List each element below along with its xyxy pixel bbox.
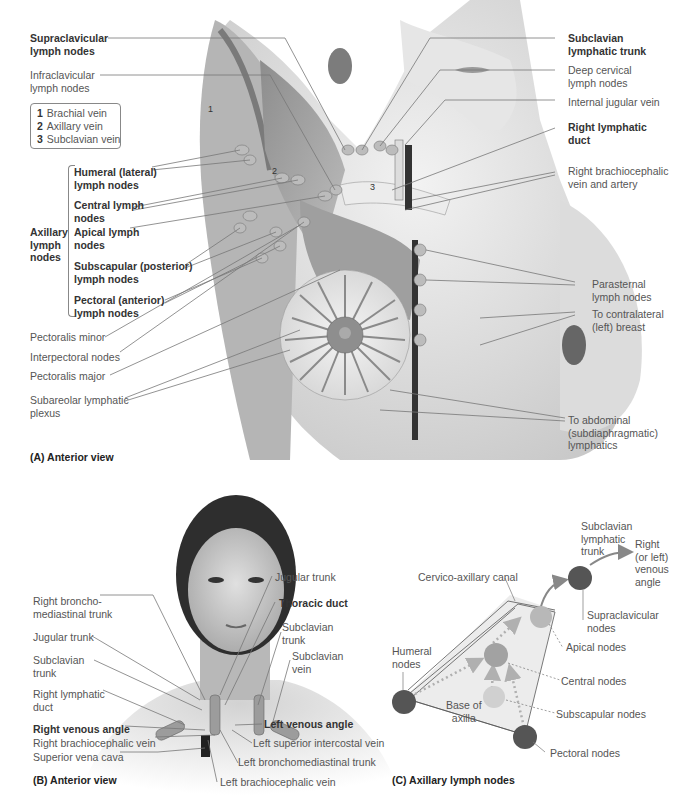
svg-text:3: 3 [370, 182, 375, 192]
subscapular-node [483, 686, 505, 708]
label-parasternal-nodes: Parasternallymph nodes [592, 278, 652, 303]
label-subareolar-plexus: Subareolar lymphaticplexus [30, 394, 129, 419]
legend-item-2: 2Axillary vein [37, 120, 114, 133]
caption-panel-c: (C) Axillary lymph nodes [392, 774, 515, 786]
label-subclavian-vein: Subclavianvein [292, 650, 343, 675]
label-superior-vena-cava: Superior vena cava [33, 751, 123, 764]
pectoral-node [513, 725, 537, 749]
label-c-central-nodes: Central nodes [561, 675, 626, 688]
label-humeral-nodes: Humeral (lateral)lymph nodes [74, 166, 157, 191]
label-pectoralis-major: Pectoralis major [30, 370, 105, 383]
apical-node [530, 606, 552, 628]
label-thoracic-duct: Thoracic duct [279, 597, 348, 610]
caption-panel-a: (A) Anterior view [30, 451, 114, 463]
svg-text:1: 1 [208, 104, 213, 114]
supraclavicular-node [568, 566, 592, 590]
label-infraclavicular-nodes: Infraclavicularlymph nodes [30, 69, 95, 94]
panel-b-illustration [80, 495, 400, 795]
legend-item-3: 3Subclavian vein [37, 133, 114, 146]
panel-a-illustration: 123 [100, 0, 642, 460]
label-central-nodes: Central lymphnodes [74, 199, 144, 224]
label-right-brachiocephalic-vein: Right brachiocephalic vein [33, 737, 156, 750]
svg-text:2: 2 [272, 166, 277, 176]
label-apical-nodes: Apical lymphnodes [74, 226, 139, 251]
label-c-supraclavicular-nodes: Supraclavicularnodes [587, 609, 659, 634]
label-left-brachiocephalic-vein: Left brachiocephalic vein [220, 776, 336, 789]
humeral-node [392, 690, 416, 714]
label-c-subclavian-trunk: Subclavianlymphatictrunk [581, 520, 632, 558]
label-pectoral-nodes: Pectoral (anterior)lymph nodes [74, 294, 164, 319]
label-right-lymphatic-duct: Right lymphaticduct [568, 121, 647, 146]
label-right-subclavian-trunk: Subclaviantrunk [33, 654, 84, 679]
label-left-bronchomediastinal-trunk: Left bronchomediastinal trunk [238, 756, 376, 769]
label-left-subclavian-trunk: Subclaviantrunk [282, 621, 333, 646]
label-right-venous-angle: Right venous angle [33, 723, 130, 736]
label-interpectoral-nodes: Interpectoral nodes [30, 351, 120, 364]
label-contralateral-breast: To contralateral(left) breast [592, 308, 664, 333]
label-right-brachiocephalic: Right brachiocephalicvein and artery [568, 165, 668, 190]
label-right-bronchomediastinal-trunk: Right broncho-mediastinal trunk [33, 595, 112, 620]
label-c-pectoral-nodes: Pectoral nodes [550, 747, 620, 760]
label-base-of-axilla: Base ofaxilla [446, 699, 482, 724]
label-cervico-axillary-canal: Cervico-axillary canal [418, 571, 518, 584]
label-right-jugular-trunk: Jugular trunk [33, 631, 94, 644]
label-c-humeral-nodes: Humeralnodes [392, 645, 432, 670]
label-c-apical-nodes: Apical nodes [566, 641, 626, 654]
label-abdominal-lymphatics: To abdominal(subdiaphragmatic)lymphatics [568, 414, 658, 452]
central-node [484, 643, 508, 667]
label-left-superior-intercostal-vein: Left superior intercostal vein [253, 737, 384, 750]
label-subscapular-nodes: Subscapular (posterior)lymph nodes [74, 260, 192, 285]
caption-panel-b: (B) Anterior view [33, 774, 117, 786]
label-left-jugular-trunk: Jugular trunk [275, 571, 336, 584]
label-supraclavicular-nodes: Supraclavicularlymph nodes [30, 32, 108, 57]
label-axillary-group: Axillarylymphnodes [30, 226, 68, 264]
label-pectoralis-minor: Pectoralis minor [30, 331, 105, 344]
label-deep-cervical-nodes: Deep cervicallymph nodes [568, 64, 632, 89]
label-internal-jugular-vein: Internal jugular vein [568, 96, 660, 109]
label-b-right-lymphatic-duct: Right lymphaticduct [33, 688, 105, 713]
legend-item-1: 1Brachial vein [37, 107, 114, 120]
label-subclavian-lymphatic-trunk: Subclavianlymphatic trunk [568, 32, 646, 57]
label-left-venous-angle: Left venous angle [264, 718, 353, 731]
vein-legend: 1Brachial vein 2Axillary vein 3Subclavia… [30, 103, 121, 149]
label-venous-angle: Right(or left)venousangle [635, 538, 669, 588]
label-c-subscapular-nodes: Subscapular nodes [556, 708, 646, 721]
